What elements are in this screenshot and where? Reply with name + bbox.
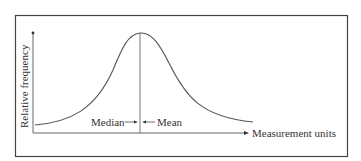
x-axis-label: Measurement units — [252, 127, 336, 139]
median-arrow-icon — [134, 121, 138, 124]
mean-label: Mean — [157, 116, 183, 128]
skewed-distribution-figure: Median Mean Measurement units Relative f… — [0, 0, 361, 161]
y-axis-arrow-icon — [32, 32, 35, 35]
y-axis-label: Relative frequency — [18, 44, 30, 128]
mean-arrow-icon — [142, 121, 146, 124]
distribution-curve — [35, 33, 253, 125]
distribution-diagram: Median Mean Measurement units Relative f… — [0, 0, 361, 161]
median-label: Median — [91, 116, 125, 128]
x-axis-arrow-icon — [244, 131, 249, 135]
